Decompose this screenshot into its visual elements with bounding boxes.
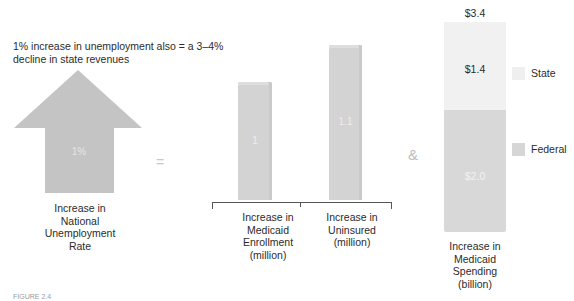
spending-label: Increase in Medicaid Spending (billion) [430, 240, 520, 290]
label-line: National [30, 215, 130, 228]
label-line: Increase in [312, 211, 392, 224]
label-line: Increase in [430, 240, 520, 253]
legend-label-state: State [531, 67, 556, 79]
label-line: Spending [430, 265, 520, 278]
federal-value: $2.0 [444, 170, 506, 182]
annotation-line-2: decline in state revenues [13, 53, 273, 66]
category-bracket [212, 202, 392, 209]
unemployment-label: Increase in National Unemployment Rate [30, 202, 130, 252]
up-arrow-icon [14, 70, 142, 193]
label-line: Increase in [30, 202, 130, 215]
state-value: $1.4 [444, 63, 506, 75]
label-line: Rate [30, 240, 130, 253]
annotation-note: 1% increase in unemployment also = a 3–4… [13, 40, 273, 66]
label-line: Unemployment [30, 227, 130, 240]
annotation-line-1: 1% increase in unemployment also = a 3–4… [13, 40, 273, 53]
label-line: Enrollment [228, 236, 308, 249]
bar-value-enrollment: 1 [238, 135, 272, 146]
enrollment-label: Increase in Medicaid Enrollment (million… [228, 211, 308, 261]
spending-total: $3.4 [444, 7, 506, 19]
legend-label-federal: Federal [531, 143, 567, 155]
uninsured-label: Increase in Uninsured (million) [312, 211, 392, 249]
label-line: (million) [312, 236, 392, 249]
label-line: Medicaid [228, 224, 308, 237]
legend-swatch-federal [512, 143, 525, 156]
legend-swatch-state [512, 67, 525, 80]
arrow-value: 1% [64, 146, 94, 157]
equals-operator: = [156, 154, 164, 170]
and-operator: & [408, 146, 418, 163]
label-line: (million) [228, 249, 308, 262]
label-line: Medicaid [430, 253, 520, 266]
label-line: Uninsured [312, 224, 392, 237]
label-line: (billion) [430, 278, 520, 291]
figure-caption: FIGURE 2.4 [13, 293, 51, 300]
bar-value-uninsured: 1.1 [329, 116, 362, 127]
category-divider-tick [300, 202, 301, 207]
label-line: Increase in [228, 211, 308, 224]
